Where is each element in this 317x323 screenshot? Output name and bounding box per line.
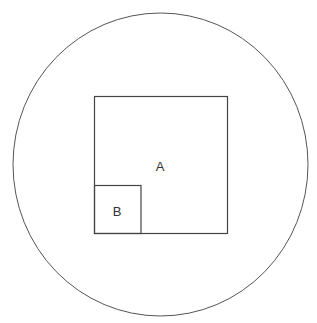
label-b: B [113,204,122,219]
label-a: A [156,159,165,174]
diagram-canvas: A B [0,0,317,323]
